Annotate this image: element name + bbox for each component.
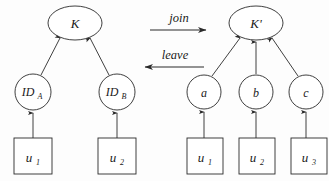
operation-arrows-group: join leave [145, 11, 206, 67]
leave-label: leave [162, 48, 189, 62]
node-u1-right [187, 138, 223, 174]
edge-a-to-kprime [212, 38, 240, 76]
node-u1-left-subscript: 1 [36, 158, 40, 167]
join-label: join [167, 11, 188, 25]
node-id-a-subscript: A [37, 92, 43, 101]
edge-ida-to-k [41, 38, 60, 75]
node-a-label: a [201, 86, 207, 100]
node-k-label: K [70, 16, 81, 31]
node-u2-right-label: u [250, 150, 257, 165]
node-u2-left [98, 138, 136, 174]
node-u1-right-subscript: 1 [208, 158, 212, 167]
node-u2-right [239, 138, 275, 174]
node-k-prime-label: K' [249, 16, 262, 31]
node-u2-left-label: u [110, 150, 117, 165]
node-u3-right-subscript: 3 [311, 158, 316, 167]
edge-idb-to-k [90, 38, 109, 75]
node-b-label: b [253, 86, 259, 100]
node-u2-right-subscript: 2 [260, 158, 264, 167]
node-id-a-label: ID [21, 85, 35, 99]
node-u1-right-label: u [198, 150, 205, 165]
key-tree-diagram: K ID A ID B u 1 u 2 join leave [0, 0, 329, 181]
node-u1-left [14, 138, 52, 174]
edge-c-to-kprime [272, 38, 298, 76]
node-id-b-subscript: B [122, 92, 127, 101]
node-u2-left-subscript: 2 [120, 158, 124, 167]
node-c-label: c [303, 86, 309, 100]
node-u3-right-label: u [302, 150, 309, 165]
node-id-b-label: ID [105, 85, 119, 99]
right-tree-group: K' a b c u 1 u 2 u 3 [187, 6, 327, 174]
node-u1-left-label: u [26, 150, 33, 165]
left-tree-group: K ID A ID B u 1 u 2 [14, 6, 136, 174]
diagram-canvas: K ID A ID B u 1 u 2 join leave [0, 0, 329, 181]
node-u3-right [291, 138, 327, 174]
